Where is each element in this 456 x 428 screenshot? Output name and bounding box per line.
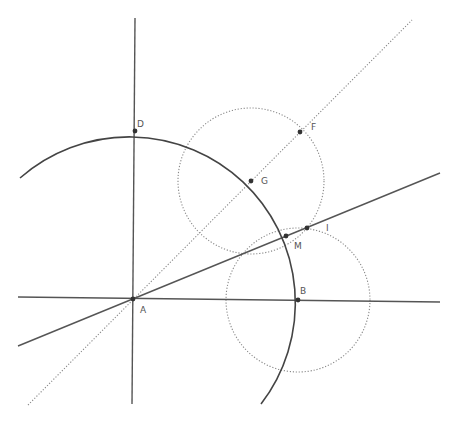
construction-lines [18,18,440,405]
line-AI [18,173,440,346]
point-B[interactable] [296,298,301,303]
point-A[interactable] [131,297,136,302]
construction-circles [178,108,370,372]
horizontal-axis [18,297,440,302]
label-I: I [326,223,329,233]
point-I[interactable] [305,226,310,231]
point-G[interactable] [249,179,254,184]
construction-points [131,129,310,303]
geometry-canvas: ABDFGMI [0,0,456,428]
arc-center-A [20,137,295,404]
label-D: D [137,119,144,129]
point-M[interactable] [284,234,289,239]
label-M: M [294,241,302,251]
point-D[interactable] [133,129,138,134]
construction-arcs [20,137,295,404]
label-B: B [300,286,306,296]
line-AF [28,20,412,405]
label-G: G [261,176,268,186]
label-A: A [140,305,147,315]
label-F: F [311,122,316,132]
point-F[interactable] [298,130,303,135]
vertical-axis [132,18,135,404]
